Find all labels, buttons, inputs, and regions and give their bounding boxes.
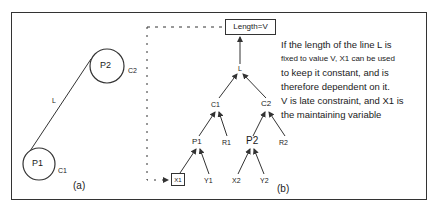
node-p1: P1	[192, 137, 202, 146]
description-line: fixed to value V, X1 can be used	[281, 52, 421, 66]
caption-a: (a)	[73, 180, 85, 191]
node-x1-box: X1	[171, 173, 185, 186]
description-line: the maintaining variable	[281, 108, 421, 122]
node-c2: C2	[261, 99, 271, 108]
p1-label: P1	[32, 159, 43, 168]
description-line: If the length of the line L is	[281, 38, 421, 52]
caption-b: (b)	[277, 183, 289, 194]
node-y1: Y1	[204, 176, 213, 185]
node-r2: R2	[279, 138, 288, 147]
length-constraint-box: Length=V	[225, 19, 276, 35]
description-line: to keep it constant, and is	[281, 66, 421, 80]
node-r1: R1	[222, 138, 231, 147]
node-y2: Y2	[260, 176, 269, 185]
node-x2: X2	[232, 176, 241, 185]
node-l: L	[238, 64, 242, 73]
line-l	[30, 59, 91, 151]
p2-label: P2	[100, 61, 111, 70]
description-line: therefore dependent on it.	[281, 80, 421, 94]
node-p2: P2	[246, 136, 258, 145]
c2-label-a: C2	[128, 66, 137, 75]
c1-label-a: C1	[58, 166, 67, 175]
description-text: If the length of the line L is fixed to …	[281, 38, 421, 122]
description-line: V is late constraint, and X1 is	[281, 94, 421, 108]
node-c1: C1	[211, 100, 220, 109]
line-l-label: L	[52, 96, 56, 105]
